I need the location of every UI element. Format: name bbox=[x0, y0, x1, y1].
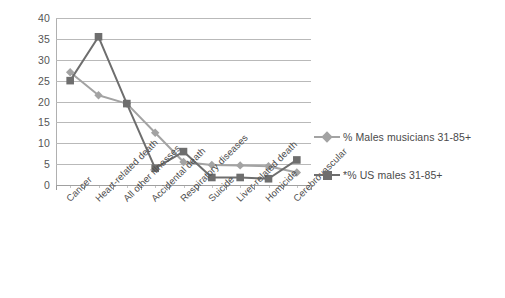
x-axis-minor-tick bbox=[269, 186, 270, 188]
x-axis-tick bbox=[141, 186, 142, 190]
legend-label-musicians: % Males musicians 31-85+ bbox=[343, 131, 471, 143]
chart-legend: % Males musicians 31-85+ *% US males 31-… bbox=[314, 118, 502, 194]
square-marker-icon bbox=[323, 171, 332, 180]
y-axis-tick-label: 30 bbox=[16, 55, 50, 65]
x-axis-tick bbox=[254, 186, 255, 190]
y-axis-tick-labels: 4035302520151050 bbox=[8, 18, 50, 185]
diamond-marker-icon bbox=[293, 168, 301, 176]
x-axis-tick bbox=[226, 186, 227, 190]
square-marker-icon bbox=[66, 77, 74, 85]
series-line bbox=[70, 72, 297, 172]
x-axis-tick bbox=[198, 186, 199, 190]
square-marker-icon bbox=[95, 33, 103, 41]
square-marker-icon bbox=[265, 175, 273, 183]
square-marker-icon bbox=[208, 174, 216, 182]
square-marker-icon bbox=[180, 148, 188, 156]
series-line bbox=[70, 37, 297, 179]
diamond-marker-icon bbox=[264, 162, 272, 170]
legend-entry-musicians[interactable]: % Males musicians 31-85+ bbox=[314, 118, 502, 156]
x-axis-tick bbox=[113, 186, 114, 190]
x-axis-minor-tick bbox=[155, 186, 156, 188]
legend-entry-us-males[interactable]: *% US males 31-85+ bbox=[314, 156, 502, 194]
y-axis-tick-label: 40 bbox=[16, 13, 50, 23]
y-axis-tick-label: 5 bbox=[16, 159, 50, 169]
square-marker-icon bbox=[236, 174, 244, 182]
line-chart: 4035302520151050 CancerHeart-related dea… bbox=[0, 0, 505, 298]
x-axis-tick bbox=[56, 186, 57, 190]
legend-swatch-us-males bbox=[314, 169, 340, 181]
y-axis-tick-label: 15 bbox=[16, 117, 50, 127]
square-marker-icon bbox=[151, 165, 159, 173]
y-axis-tick-label: 25 bbox=[16, 76, 50, 86]
legend-label-us-males: *% US males 31-85+ bbox=[343, 169, 443, 181]
x-axis-minor-tick bbox=[70, 186, 71, 188]
x-axis-minor-tick bbox=[127, 186, 128, 188]
x-axis-minor-tick bbox=[99, 186, 100, 188]
diamond-marker-icon bbox=[321, 131, 332, 142]
square-marker-icon bbox=[123, 100, 131, 108]
y-axis-tick-label: 35 bbox=[16, 34, 50, 44]
legend-swatch-musicians bbox=[314, 131, 340, 143]
y-axis-tick-label: 20 bbox=[16, 97, 50, 107]
y-axis-tick-label: 0 bbox=[16, 180, 50, 190]
x-axis-minor-tick bbox=[184, 186, 185, 188]
y-axis-tick-label: 10 bbox=[16, 138, 50, 148]
x-axis-tick bbox=[311, 186, 312, 190]
x-axis-tick bbox=[283, 186, 284, 190]
diamond-marker-icon bbox=[236, 161, 244, 169]
x-axis-minor-tick bbox=[212, 186, 213, 188]
x-axis-minor-tick bbox=[297, 186, 298, 188]
diamond-marker-icon bbox=[208, 161, 216, 169]
x-axis-tick bbox=[84, 186, 85, 190]
x-axis-tick bbox=[169, 186, 170, 190]
square-marker-icon bbox=[293, 156, 301, 164]
x-axis-minor-tick bbox=[240, 186, 241, 188]
series-plot bbox=[56, 18, 311, 185]
